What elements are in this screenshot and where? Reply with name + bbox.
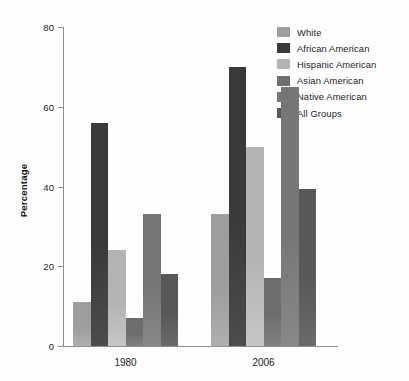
- y-tick-mark: [58, 187, 63, 188]
- bar: [126, 318, 144, 346]
- bar: [281, 87, 299, 346]
- y-tick-label: 80: [43, 22, 54, 33]
- bar: [211, 214, 229, 346]
- x-axis-line: [63, 346, 338, 347]
- bar: [161, 274, 179, 346]
- chart-figure: Percentage WhiteAfrican AmericanHispanic…: [0, 0, 409, 381]
- y-tick-mark: [58, 346, 63, 347]
- bar: [299, 189, 317, 347]
- y-tick-label: 0: [49, 341, 54, 352]
- bar: [229, 67, 247, 346]
- bar: [246, 147, 264, 346]
- y-tick-mark: [58, 107, 63, 108]
- y-tick-label: 20: [43, 261, 54, 272]
- y-tick-label: 40: [43, 181, 54, 192]
- x-axis-group-label: 1980: [114, 357, 136, 368]
- y-axis-title-text: Percentage: [19, 164, 30, 218]
- plot-area: 020406080 19802006: [63, 27, 338, 346]
- x-axis-group-label: 2006: [252, 357, 274, 368]
- y-tick-mark: [58, 266, 63, 267]
- bar: [73, 302, 91, 346]
- bar: [108, 250, 126, 346]
- y-tick-mark: [58, 27, 63, 28]
- y-axis-line: [63, 27, 64, 346]
- bar: [91, 123, 109, 346]
- bar: [264, 278, 282, 346]
- y-tick-label: 60: [43, 101, 54, 112]
- bar: [143, 214, 161, 346]
- y-axis-title: Percentage: [17, 0, 31, 381]
